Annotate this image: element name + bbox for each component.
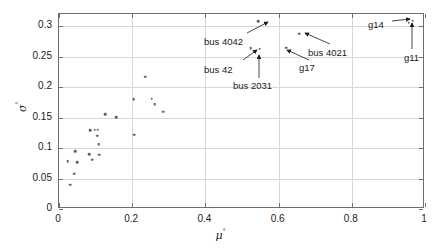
y-gridline xyxy=(59,148,423,149)
y-gridline xyxy=(59,118,423,119)
y-axis-tick-right xyxy=(419,179,423,180)
x-axis-tick-top xyxy=(425,14,426,18)
x-axis-tick xyxy=(205,203,206,207)
y-axis-tick xyxy=(59,179,63,180)
y-axis-tick-right xyxy=(419,87,423,88)
data-point xyxy=(69,183,72,186)
y-axis-tick xyxy=(59,26,63,27)
data-point xyxy=(257,20,260,23)
y-gridline xyxy=(59,179,423,180)
data-point xyxy=(407,21,410,24)
data-point xyxy=(144,75,147,78)
x-axis-label: μ° xyxy=(0,228,441,242)
x-axis-tick xyxy=(132,203,133,207)
x-axis-tick-label: 0.4 xyxy=(184,213,224,224)
data-point xyxy=(74,150,77,153)
data-point xyxy=(96,128,99,131)
y-axis-tick xyxy=(59,209,63,210)
data-point xyxy=(104,113,107,116)
x-axis-tick xyxy=(352,203,353,207)
data-point xyxy=(285,46,288,49)
y-axis-tick xyxy=(59,118,63,119)
annotation-label-g11: g11 xyxy=(404,52,419,63)
annotation-label-g17: g17 xyxy=(299,62,315,73)
y-axis-tick xyxy=(59,57,63,58)
data-point xyxy=(249,47,252,50)
y-axis-tick-label: 0.25 xyxy=(12,50,52,61)
data-point xyxy=(66,160,69,163)
y-axis-tick-right xyxy=(419,148,423,149)
y-axis-label-symbol: σ xyxy=(16,104,29,112)
x-axis-tick-top xyxy=(59,14,60,18)
data-point xyxy=(162,110,165,113)
data-point xyxy=(298,32,301,35)
y-axis-tick-right xyxy=(419,118,423,119)
y-gridline xyxy=(59,57,423,58)
x-axis-tick xyxy=(59,203,60,207)
x-axis-tick-label: 0.6 xyxy=(258,213,298,224)
annotation-label-bus-2031: bus 2031 xyxy=(233,80,272,91)
x-axis-tick-label: 0.2 xyxy=(111,213,151,224)
data-point xyxy=(88,153,91,156)
data-point xyxy=(132,98,135,101)
y-axis-label-superscript: ° xyxy=(15,102,22,105)
x-axis-tick-top xyxy=(132,14,133,18)
x-axis-tick-top xyxy=(205,14,206,18)
data-point xyxy=(411,19,414,22)
y-axis-label: σ° xyxy=(15,77,29,137)
x-axis-label-symbol: μ xyxy=(216,229,223,242)
data-point xyxy=(150,97,153,100)
annotation-label-bus-4021: bus 4021 xyxy=(308,47,347,58)
x-axis-label-superscript: ° xyxy=(223,228,226,235)
scatter-plot-figure: 00.20.40.60.81 00.050.10.150.20.250.3 μ°… xyxy=(0,0,441,251)
data-point xyxy=(115,116,118,119)
x-axis-tick-top xyxy=(279,14,280,18)
data-point xyxy=(97,143,100,146)
data-point xyxy=(91,158,94,161)
x-axis-tick-label: 0 xyxy=(38,213,78,224)
y-axis-tick-label: 0 xyxy=(12,202,52,213)
x-axis-tick-label: 0.8 xyxy=(331,213,371,224)
x-axis-tick-top xyxy=(352,14,353,18)
y-axis-tick-label: 0.05 xyxy=(12,172,52,183)
data-point xyxy=(98,153,101,156)
data-point xyxy=(258,47,261,50)
data-point xyxy=(89,129,92,132)
annotation-label-bus-42: bus 42 xyxy=(204,64,233,75)
y-axis-tick-label: 0.3 xyxy=(12,19,52,30)
y-axis-tick xyxy=(59,148,63,149)
annotation-label-g14: g14 xyxy=(368,19,384,30)
x-axis-tick-label: 1 xyxy=(404,213,441,224)
data-point xyxy=(154,103,157,106)
y-axis-tick-right xyxy=(419,26,423,27)
y-axis-tick-label: 0.1 xyxy=(12,141,52,152)
data-point xyxy=(76,161,79,164)
data-point xyxy=(73,172,76,175)
y-axis-tick-right xyxy=(419,209,423,210)
data-point xyxy=(96,135,99,138)
x-axis-tick xyxy=(425,203,426,207)
annotation-label-bus-4042: bus 4042 xyxy=(204,36,243,47)
x-axis-tick xyxy=(279,203,280,207)
y-axis-tick-right xyxy=(419,57,423,58)
y-axis-tick xyxy=(59,87,63,88)
data-point xyxy=(133,133,136,136)
